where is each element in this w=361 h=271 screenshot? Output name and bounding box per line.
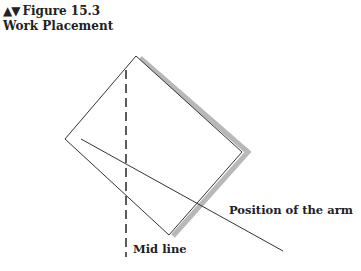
arm-label: Position of the arm bbox=[229, 203, 353, 217]
midline-label: Mid line bbox=[133, 242, 187, 256]
work-placement-diagram: Position of the arm Mid line bbox=[0, 0, 361, 271]
work-sheet bbox=[65, 56, 242, 235]
